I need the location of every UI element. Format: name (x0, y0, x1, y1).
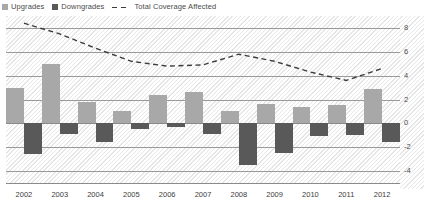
x-tick-label-2003: 2003 (42, 190, 78, 199)
x-tick-label-2005: 2005 (113, 190, 149, 199)
total-coverage-affected-line (24, 23, 382, 80)
x-tick-label-2007: 2007 (185, 190, 221, 199)
x-tick-label-2008: 2008 (221, 190, 257, 199)
plot-area (6, 16, 400, 183)
x-axis-line (6, 183, 400, 184)
y-tick-label: 0 (404, 119, 422, 127)
x-tick-label-2002: 2002 (6, 190, 42, 199)
x-tick-label-2009: 2009 (257, 190, 293, 199)
x-tick-label-2010: 2010 (293, 190, 329, 199)
y-tick-label: -2 (404, 143, 422, 151)
x-tick-label-2012: 2012 (364, 190, 400, 199)
y-tick-label: 2 (404, 96, 422, 104)
legend-item-downgrades[interactable]: Downgrades (52, 3, 104, 11)
legend-swatch-icon (52, 4, 58, 10)
legend-swatch-icon (2, 4, 8, 10)
legend-item-label: Total Coverage Affected (134, 3, 216, 11)
x-tick-label-2011: 2011 (328, 190, 364, 199)
legend-item-total-coverage-affected[interactable]: Total Coverage Affected (112, 3, 216, 11)
x-tick-label-2004: 2004 (78, 190, 114, 199)
chart-legend: UpgradesDowngradesTotal Coverage Affecte… (2, 1, 224, 13)
y-tick-label: 8 (404, 24, 422, 32)
x-tick-label-2006: 2006 (149, 190, 185, 199)
legend-item-label: Downgrades (61, 3, 104, 11)
legend-dashed-line-icon (112, 7, 130, 8)
legend-item-upgrades[interactable]: Upgrades (2, 3, 44, 11)
y-tick-label: 6 (404, 48, 422, 56)
y-tick-label: 4 (404, 72, 422, 80)
legend-item-label: Upgrades (11, 3, 44, 11)
chart-figure: UpgradesDowngradesTotal Coverage Affecte… (0, 0, 424, 205)
y-tick-label: -4 (404, 167, 422, 175)
total-coverage-line (6, 16, 400, 183)
